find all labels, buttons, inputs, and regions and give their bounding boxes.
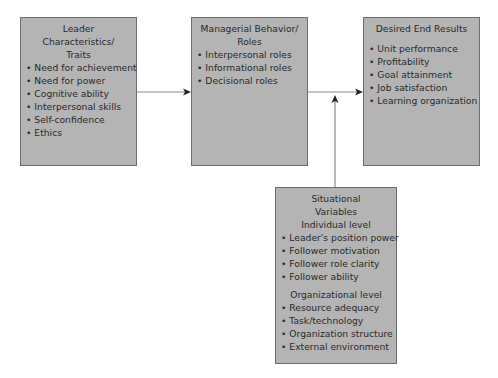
managerial-box-title: Managerial Behavior/ Roles	[197, 22, 302, 48]
list-item: Goal attainment	[369, 68, 474, 81]
leader-traits-list: Need for achievement Need for power Cogn…	[26, 61, 131, 139]
list-item: Interpersonal roles	[197, 48, 302, 61]
organizational-level-list: Resource adequacy Task/technology Organi…	[281, 301, 391, 353]
title-line: Leader Characteristics/	[26, 22, 131, 48]
organizational-level-heading: Organizational level	[281, 288, 391, 301]
leader-characteristics-box: Leader Characteristics/ Traits Need for …	[20, 17, 137, 166]
list-item: Need for power	[26, 74, 131, 87]
individual-level-heading: Individual level	[281, 218, 391, 231]
title-line: Situational	[281, 192, 391, 205]
individual-level-list: Leader's position power Follower motivat…	[281, 231, 391, 283]
title-line: Variables	[281, 205, 391, 218]
list-item: External environment	[281, 340, 391, 353]
list-item: Interpersonal skills	[26, 100, 131, 113]
list-item: Ethics	[26, 126, 131, 139]
results-list: Unit performance Profitability Goal atta…	[369, 42, 474, 107]
list-item: Profitability	[369, 55, 474, 68]
list-item: Unit performance	[369, 42, 474, 55]
list-item: Leader's position power	[281, 231, 391, 244]
list-item: Informational roles	[197, 61, 302, 74]
list-item: Follower ability	[281, 270, 391, 283]
list-item: Cognitive ability	[26, 87, 131, 100]
list-item: Follower role clarity	[281, 257, 391, 270]
list-item: Self-confidence	[26, 113, 131, 126]
desired-end-results-box: Desired End Results Unit performance Pro…	[363, 17, 480, 166]
title-line: Traits	[26, 48, 131, 61]
list-item: Job satisfaction	[369, 81, 474, 94]
managerial-behavior-box: Managerial Behavior/ Roles Interpersonal…	[191, 17, 308, 166]
situational-variables-box: Situational Variables Individual level L…	[275, 187, 397, 364]
list-item: Organization structure	[281, 327, 391, 340]
list-item: Learning organization	[369, 94, 474, 107]
list-item: Decisional roles	[197, 74, 302, 87]
managerial-roles-list: Interpersonal roles Informational roles …	[197, 48, 302, 87]
list-item: Resource adequacy	[281, 301, 391, 314]
results-box-title: Desired End Results	[369, 22, 474, 35]
situational-box-title: Situational Variables	[281, 192, 391, 218]
list-item: Follower motivation	[281, 244, 391, 257]
title-line: Roles	[197, 35, 302, 48]
list-item: Task/technology	[281, 314, 391, 327]
leader-box-title: Leader Characteristics/ Traits	[26, 22, 131, 61]
list-item: Need for achievement	[26, 61, 131, 74]
title-line: Managerial Behavior/	[197, 22, 302, 35]
